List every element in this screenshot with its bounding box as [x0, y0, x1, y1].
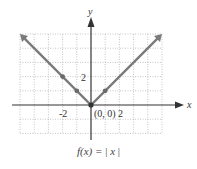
data-point — [103, 88, 108, 93]
y-axis-arrow-icon — [88, 17, 95, 27]
x-axis-arrow-icon — [175, 102, 184, 109]
tick-label-y2: 2 — [81, 72, 86, 83]
data-point — [88, 102, 93, 107]
x-axis-label: x — [186, 99, 192, 110]
y-axis-label: y — [87, 6, 93, 17]
absolute-value-graph: x y -2 (0, 0) 2 2 — [0, 0, 197, 169]
origin-label: (0, 0) — [94, 108, 116, 120]
caption-bar-close: | — [118, 145, 120, 157]
data-point — [60, 74, 65, 79]
function-caption: f(x) = | x | — [0, 145, 197, 157]
data-point — [74, 88, 79, 93]
caption-bar-open: | — [105, 145, 107, 157]
tick-label-neg2: -2 — [59, 108, 67, 119]
caption-var: x — [110, 145, 115, 157]
caption-prefix: f(x) = — [77, 145, 105, 157]
tick-label-pos2: 2 — [118, 108, 123, 119]
